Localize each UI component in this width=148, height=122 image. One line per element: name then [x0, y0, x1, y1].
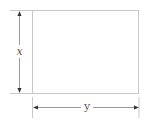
- arrow-down-icon: [18, 88, 22, 93]
- rectangle: [33, 11, 139, 94]
- arrow-up-icon: [18, 11, 22, 16]
- rectangle-dimension-diagram: [0, 0, 148, 122]
- arrow-left-icon: [33, 106, 38, 110]
- height-label: x: [15, 45, 24, 58]
- width-label: y: [81, 101, 93, 112]
- arrow-right-icon: [134, 106, 139, 110]
